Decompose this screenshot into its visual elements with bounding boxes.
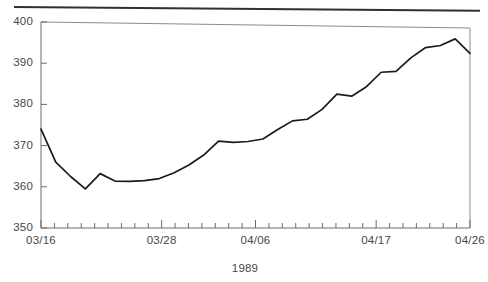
data-series-line — [41, 39, 470, 189]
x-axis-ticks — [41, 220, 470, 228]
x-axis-tick-label: 03/16 — [15, 234, 67, 246]
plot-axes — [41, 22, 470, 228]
x-axis-tick-label: 04/06 — [230, 234, 282, 246]
plot-frame-box — [41, 22, 470, 228]
y-axis-tick-label: 350 — [3, 221, 33, 233]
chart-figure: 350360370380390400 03/1603/2804/0604/170… — [0, 0, 488, 282]
x-axis-title: 1989 — [215, 262, 275, 274]
y-axis-tick-label: 360 — [3, 180, 33, 192]
x-axis-tick-label: 04/17 — [350, 234, 402, 246]
y-axis-tick-label: 370 — [3, 139, 33, 151]
y-axis-tick-label: 400 — [3, 15, 33, 27]
x-axis-tick-label: 03/28 — [136, 234, 188, 246]
y-axis-ticks — [41, 22, 47, 228]
y-axis-tick-label: 390 — [3, 56, 33, 68]
y-axis-tick-label: 380 — [3, 97, 33, 109]
x-axis-tick-label: 04/26 — [444, 234, 488, 246]
